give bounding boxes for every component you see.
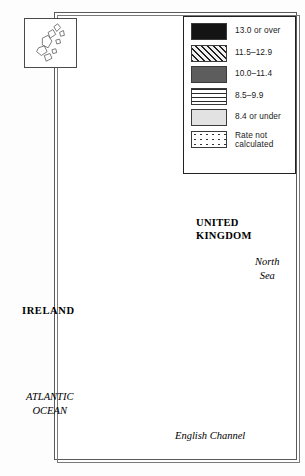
legend-label: 8.4 or under: [235, 109, 281, 121]
legend-swatch-solid-black: [191, 23, 227, 40]
legend-row: 8.5–9.9: [191, 88, 290, 105]
legend-label: 11.5–12.9: [235, 45, 272, 57]
legend-label: 8.5–9.9: [235, 88, 263, 100]
label-ireland: IRELAND: [22, 305, 75, 316]
legend-row: 8.4 or under: [191, 109, 290, 126]
shetland-inset-box: [24, 18, 77, 68]
label-united-kingdom: UNITED KINGDOM: [196, 216, 252, 242]
legend-label: 10.0–11.4: [235, 66, 272, 78]
shetland-inset-outline: [25, 19, 76, 67]
legend-swatch-solid-dark-gray: [191, 66, 227, 83]
legend-row: Rate not calculated: [191, 131, 290, 150]
legend-box: 13.0 or over 11.5–12.9 10.0–11.4 8.5–9.9…: [183, 16, 296, 174]
label-north-sea: North Sea: [255, 255, 280, 283]
legend-row: 13.0 or over: [191, 23, 290, 40]
legend-row: 11.5–12.9: [191, 45, 290, 62]
legend-swatch-solid-light-gray: [191, 109, 227, 126]
legend-label: Rate not calculated: [235, 131, 273, 150]
legend-swatch-diagonal-hatch: [191, 45, 227, 62]
map-figure: 13.0 or over 11.5–12.9 10.0–11.4 8.5–9.9…: [0, 0, 305, 476]
legend-swatch-scattered-dots: [191, 131, 227, 148]
label-english-channel: English Channel: [175, 430, 245, 441]
legend-label: 13.0 or over: [235, 23, 280, 35]
legend-row: 10.0–11.4: [191, 66, 290, 83]
label-atlantic-ocean: ATLANTIC OCEAN: [26, 390, 73, 418]
legend-swatch-horizontal-lines: [191, 88, 227, 105]
